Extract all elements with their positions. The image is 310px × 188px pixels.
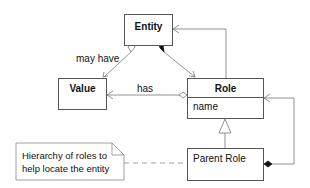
may-have-label: may have bbox=[76, 53, 119, 64]
loop-composition-diamond-icon bbox=[264, 161, 272, 167]
entity-class[interactable]: Entity bbox=[124, 14, 173, 46]
role-divider bbox=[188, 97, 263, 98]
parent-role-class-name: Parent Role bbox=[193, 153, 246, 164]
has-diamond-icon bbox=[179, 92, 187, 98]
role-class[interactable]: Role name bbox=[187, 78, 264, 119]
role-attribute-name: name bbox=[193, 101, 218, 112]
parent-role-class[interactable]: Parent Role bbox=[187, 148, 264, 181]
note: Hierarchy of roles to help locate the en… bbox=[16, 143, 124, 180]
role-class-name: Role bbox=[188, 83, 263, 94]
value-class-name: Value bbox=[59, 83, 106, 94]
has-label: has bbox=[137, 83, 153, 94]
entity-role-connector bbox=[164, 52, 195, 77]
parent-role-loop-connector bbox=[264, 98, 294, 164]
value-class[interactable]: Value bbox=[58, 78, 107, 110]
note-line-1: Hierarchy of roles to bbox=[22, 149, 109, 162]
generalization-triangle-icon bbox=[219, 119, 231, 133]
note-text: Hierarchy of roles to help locate the en… bbox=[22, 149, 109, 175]
entity-class-name: Entity bbox=[125, 21, 172, 32]
role-entity-connector bbox=[173, 29, 226, 78]
note-line-2: help locate the entity bbox=[22, 162, 109, 175]
